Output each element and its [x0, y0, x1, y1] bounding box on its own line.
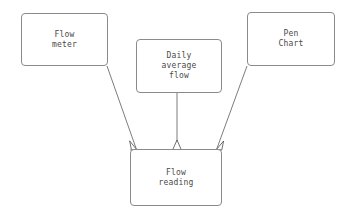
node-flow-reading-label: Flow reading: [158, 168, 193, 188]
node-pen-chart-label: Pen Chart: [278, 29, 303, 49]
node-flow-meter-label: Flow meter: [52, 30, 77, 50]
diagram-canvas: Flow meter Daily average flow Pen Chart …: [0, 0, 350, 223]
node-flow-reading[interactable]: Flow reading: [130, 149, 222, 206]
edge-daily-average-flow-to-flow-reading: [173, 93, 182, 151]
node-daily-average-flow-label: Daily average flow: [161, 51, 196, 81]
edge-line: [107, 66, 137, 151]
node-flow-meter[interactable]: Flow meter: [21, 13, 108, 66]
node-pen-chart[interactable]: Pen Chart: [247, 12, 335, 66]
edge-flow-meter-to-flow-reading: [107, 66, 137, 151]
node-daily-average-flow[interactable]: Daily average flow: [136, 39, 222, 93]
